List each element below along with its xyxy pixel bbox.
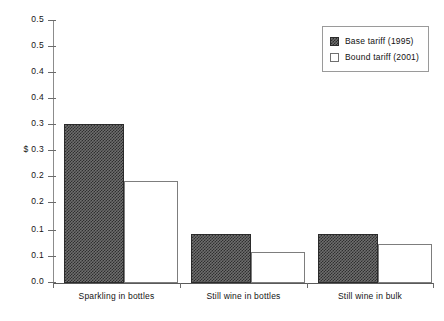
bar-chart: 0.5 0.5 0.4 0.4 0.3 $ 0.3 0.2 0.2 (0, 0, 444, 321)
x-tick-mark (180, 283, 181, 288)
legend-swatch-icon (330, 37, 339, 46)
y-tick-label: 0.0 (0, 276, 44, 286)
chart-legend: Base tariff (1995) Bound tariff (2001) (322, 26, 429, 72)
bar-bound-tariff[interactable] (124, 181, 178, 283)
x-tick-mark (307, 283, 308, 288)
bar-base-tariff[interactable] (64, 124, 124, 283)
y-tick-label: 0.4 (0, 92, 44, 102)
bar-bound-tariff[interactable] (251, 252, 305, 283)
bar-base-tariff[interactable] (191, 234, 251, 283)
x-axis-category-label: Still wine in bulk (307, 291, 433, 301)
y-tick-label: 0.4 (0, 66, 44, 76)
bar-base-tariff[interactable] (318, 234, 378, 283)
x-tick-mark (433, 283, 434, 288)
y-tick-label: 0.5 (0, 40, 44, 50)
legend-item-bound-tariff[interactable]: Bound tariff (2001) (330, 49, 419, 65)
x-axis-category-label: Still wine in bottles (180, 291, 307, 301)
y-tick-label: 0.3 (0, 118, 44, 128)
y-tick-label: 0.2 (0, 196, 44, 206)
x-tick-mark (53, 283, 54, 288)
y-tick-label: 0.5 (0, 14, 44, 24)
legend-item-base-tariff[interactable]: Base tariff (1995) (330, 33, 419, 49)
legend-item-label: Base tariff (1995) (345, 36, 414, 46)
y-tick-label: 0.1 (0, 250, 44, 260)
x-axis-line (53, 283, 433, 284)
y-tick-label: 0.2 (0, 170, 44, 180)
legend-swatch-icon (330, 53, 339, 62)
y-tick-label: 0.1 (0, 224, 44, 234)
legend-item-label: Bound tariff (2001) (345, 52, 419, 62)
y-tick-label: $ 0.3 (0, 144, 44, 154)
x-axis-category-label: Sparkling in bottles (53, 291, 180, 301)
bar-bound-tariff[interactable] (378, 244, 432, 283)
